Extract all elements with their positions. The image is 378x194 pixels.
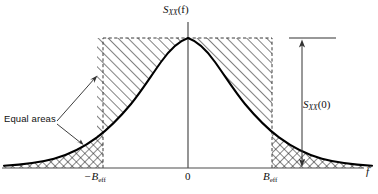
tick-pos-beff-symbol: B xyxy=(263,170,270,182)
tick-label-neg-beff: −Beff xyxy=(84,171,106,184)
leader-line-to-crosshatch xyxy=(57,124,81,143)
frequency-axis-label: f xyxy=(366,166,369,177)
figure-container: SXX(f) SXX(0) −Beff 0 Beff f Equal areas xyxy=(0,0,378,194)
tick-neg-beff-symbol: −B xyxy=(84,170,98,182)
tick-pos-beff-subscript: eff xyxy=(270,176,278,184)
leader-line-to-hatched xyxy=(57,78,95,121)
psd-title-argument: (f) xyxy=(178,3,189,15)
sxx0-subscript: XX xyxy=(309,103,318,112)
tick-neg-beff-subscript: eff xyxy=(98,176,106,184)
equal-areas-leaders xyxy=(57,76,97,146)
tick-label-zero: 0 xyxy=(185,171,191,182)
tick-label-pos-beff: Beff xyxy=(263,171,277,184)
diagonal-hatched-region xyxy=(95,36,275,142)
sxx0-label: SXX(0) xyxy=(303,99,331,111)
psd-bandwidth-diagram xyxy=(0,0,378,194)
sxx0-argument: (0) xyxy=(318,98,331,110)
equal-areas-annotation: Equal areas xyxy=(4,114,56,124)
psd-title-label: SXX(f) xyxy=(163,4,189,16)
psd-title-subscript: XX xyxy=(169,8,178,17)
axes xyxy=(2,22,364,168)
